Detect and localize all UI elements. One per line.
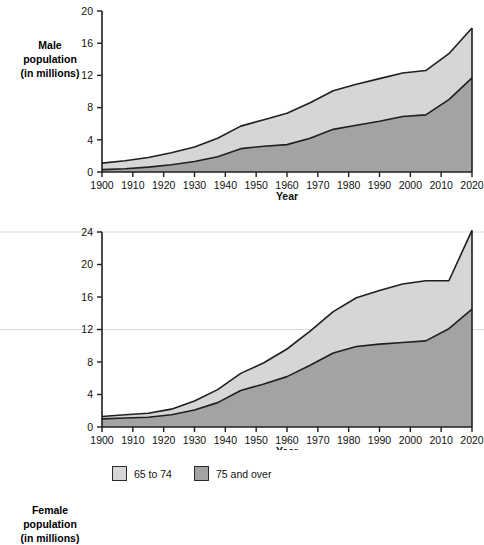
legend-swatch-75-and-over [194,466,209,481]
svg-text:0: 0 [87,166,93,178]
svg-text:1930: 1930 [183,179,207,191]
svg-text:1900: 1900 [90,434,114,446]
svg-text:1990: 1990 [368,434,392,446]
legend-item-65-to-74: 65 to 74 [112,466,172,481]
svg-text:24: 24 [81,226,93,238]
svg-text:4: 4 [87,388,93,400]
svg-text:Year: Year [276,445,298,450]
svg-text:1940: 1940 [214,434,238,446]
svg-text:1980: 1980 [337,179,361,191]
svg-text:1910: 1910 [121,434,145,446]
svg-text:1940: 1940 [214,179,238,191]
legend-item-75-and-over: 75 and over [194,466,271,481]
male-population-chart-panel: Male population (in millions) 0481216201… [0,0,484,205]
legend-label-65-to-74: 65 to 74 [134,468,172,480]
svg-text:1950: 1950 [244,434,268,446]
svg-text:1920: 1920 [152,179,176,191]
svg-text:1990: 1990 [368,179,392,191]
svg-text:8: 8 [87,101,93,113]
svg-text:1970: 1970 [306,434,330,446]
svg-text:1930: 1930 [183,434,207,446]
svg-text:1980: 1980 [337,434,361,446]
female-axis-title-line3: (in millions) [21,532,80,544]
svg-text:16: 16 [81,291,93,303]
svg-text:20: 20 [81,258,93,270]
female-axis-title-line2: population [23,518,77,530]
svg-text:12: 12 [81,69,93,81]
svg-text:2000: 2000 [399,179,423,191]
svg-text:20: 20 [81,5,93,17]
male-chart-svg: 0481216201900191019201930194019501960197… [0,0,484,205]
svg-text:2020: 2020 [460,179,484,191]
svg-text:1910: 1910 [121,179,145,191]
female-y-axis-title: Female population (in millions) [4,503,96,545]
svg-text:1950: 1950 [244,179,268,191]
female-chart-svg: 0481216202419001910192019301940195019601… [0,205,484,450]
svg-text:1970: 1970 [306,179,330,191]
svg-text:16: 16 [81,37,93,49]
svg-text:2020: 2020 [460,434,484,446]
svg-text:0: 0 [87,421,93,433]
svg-text:8: 8 [87,356,93,368]
page-watermark [10,486,50,500]
svg-text:1900: 1900 [90,179,114,191]
svg-text:12: 12 [81,323,93,335]
legend-swatch-65-to-74 [112,466,127,481]
svg-text:4: 4 [87,134,93,146]
female-axis-title-line1: Female [32,504,68,516]
svg-text:1920: 1920 [152,434,176,446]
svg-text:2000: 2000 [399,434,423,446]
female-population-chart-panel: Female population (in millions) 04812162… [0,205,484,450]
chart-legend: 65 to 74 75 and over [112,466,293,481]
legend-label-75-and-over: 75 and over [216,468,271,480]
svg-text:Year: Year [276,190,298,202]
svg-text:2010: 2010 [429,179,453,191]
svg-text:2010: 2010 [429,434,453,446]
